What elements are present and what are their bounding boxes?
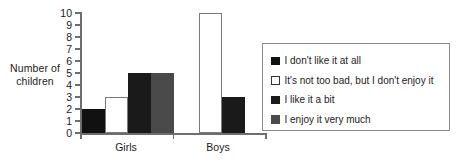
legend-swatch-3 (271, 96, 280, 105)
y-tick-label-5: 5 (58, 68, 72, 79)
y-tick-label-1: 1 (58, 116, 72, 127)
x-tick-0 (80, 133, 82, 139)
legend-item-2[interactable]: It's not too bad, but I don't enjoy it (271, 71, 449, 91)
x-tick-1 (173, 133, 175, 139)
x-tick-2 (265, 133, 267, 139)
legend-swatch-1 (271, 57, 280, 66)
legend-box: I don't like it at allIt's not too bad, … (262, 43, 450, 131)
bar-girls-series-2 (105, 97, 128, 133)
y-tick-4 (75, 84, 81, 86)
legend-swatch-2 (271, 76, 280, 85)
legend-label-3: I like it a bit (285, 94, 335, 105)
y-tick-1 (75, 120, 81, 122)
y-tick-label-6: 6 (58, 56, 72, 67)
x-group-label-boys: Boys (188, 142, 248, 153)
legend-label-2: It's not too bad, but I don't enjoy it (285, 75, 434, 86)
legend-item-1[interactable]: I don't like it at all (271, 51, 449, 71)
y-tick-9 (75, 24, 81, 26)
legend-swatch-4 (271, 115, 280, 124)
y-tick-label-10: 10 (58, 8, 72, 19)
y-tick-label-0: 0 (58, 128, 72, 139)
y-tick-label-4: 4 (58, 80, 72, 91)
y-tick-7 (75, 48, 81, 50)
y-tick-3 (75, 96, 81, 98)
bar-chart-figure: Number of children 012345678910 GirlsBoy… (0, 0, 459, 162)
bar-girls-series-1 (82, 109, 105, 133)
legend-label-1: I don't like it at all (285, 55, 361, 66)
y-tick-label-8: 8 (58, 32, 72, 43)
y-tick-6 (75, 60, 81, 62)
bar-girls-series-3 (128, 73, 151, 133)
y-tick-label-2: 2 (58, 104, 72, 115)
legend-item-4[interactable]: I enjoy it very much (271, 110, 449, 130)
bar-girls-series-4 (151, 73, 174, 133)
y-tick-5 (75, 72, 81, 74)
y-tick-2 (75, 108, 81, 110)
y-tick-8 (75, 36, 81, 38)
y-tick-label-3: 3 (58, 92, 72, 103)
bar-boys-series-2 (199, 13, 222, 133)
bar-boys-series-3 (222, 97, 245, 133)
y-tick-label-9: 9 (58, 20, 72, 31)
y-tick-10 (75, 12, 81, 14)
legend-item-3[interactable]: I like it a bit (271, 90, 449, 110)
legend-label-4: I enjoy it very much (285, 114, 371, 125)
x-group-label-girls: Girls (96, 142, 156, 153)
y-tick-label-7: 7 (58, 44, 72, 55)
